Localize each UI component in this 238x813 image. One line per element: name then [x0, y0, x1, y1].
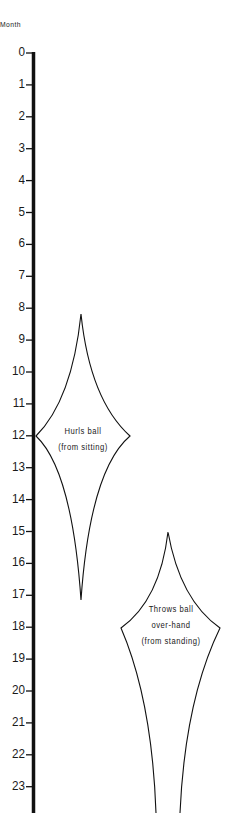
tick-label: 11 — [3, 396, 26, 410]
tick-label: 14 — [3, 492, 26, 506]
tick-label: 23 — [3, 779, 26, 793]
tick-label: 13 — [3, 460, 26, 474]
tick-label: 9 — [3, 332, 26, 346]
tick-label: 20 — [3, 683, 26, 697]
tick-label: 19 — [3, 651, 26, 665]
tick-label: 1 — [3, 77, 26, 91]
tick-label: 4 — [3, 173, 26, 187]
shape-label-hurls-ball: Hurls ball (from sitting) — [46, 423, 119, 455]
tick-label: 10 — [3, 364, 26, 378]
tick-label: 16 — [3, 555, 26, 569]
tick-label: 6 — [3, 236, 26, 250]
shape-throws-ball — [121, 532, 220, 813]
label-line: Hurls ball — [46, 423, 119, 439]
label-line: over-hand — [131, 617, 211, 633]
tick-label: 2 — [3, 109, 26, 123]
label-line: (from sitting) — [46, 439, 119, 455]
tick-label: 22 — [3, 747, 26, 761]
tick-label: 0 — [3, 45, 26, 59]
tick-label: 5 — [3, 205, 26, 219]
tick-label: 17 — [3, 587, 26, 601]
label-line: Throws ball — [131, 601, 211, 617]
tick-label: 21 — [3, 715, 26, 729]
label-line: (from standing) — [131, 633, 211, 649]
tick-label: 15 — [3, 524, 26, 538]
chart-canvas — [0, 0, 238, 813]
tick-label: 8 — [3, 300, 26, 314]
tick-label: 3 — [3, 141, 26, 155]
shape-hurls-ball — [36, 314, 130, 600]
tick-label: 12 — [3, 428, 26, 442]
tick-label: 18 — [3, 619, 26, 633]
shape-label-throws-ball: Throws ball over-hand (from standing) — [131, 601, 211, 649]
tick-label: 7 — [3, 268, 26, 282]
